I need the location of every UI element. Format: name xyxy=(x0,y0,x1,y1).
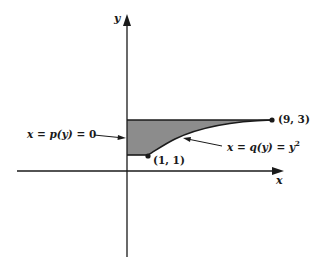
right-eq-equals-2: = xyxy=(273,141,289,153)
left-boundary-equation: x = p(y) = 0 xyxy=(27,129,96,140)
left-eq-func: p(y) xyxy=(49,128,72,140)
curve-pointer-line xyxy=(190,140,222,147)
point-1-1-marker xyxy=(145,153,150,158)
y-axis-arrowhead-icon xyxy=(123,14,131,26)
right-eq-func: q(y) xyxy=(249,141,272,153)
left-eq-equals-1: = xyxy=(33,128,49,140)
left-eq-equals-2: = xyxy=(73,128,89,140)
right-eq-rhs-exponent: 2 xyxy=(295,139,300,148)
point-label-1-1: (1, 1) xyxy=(153,155,185,166)
x-axis-label: x xyxy=(276,175,283,186)
left-eq-rhs: 0 xyxy=(89,128,96,140)
point-label-9-3: (9, 3) xyxy=(278,114,310,125)
right-boundary-equation: x = q(y) = y2 xyxy=(227,140,300,153)
curve-pointer-arrowhead-icon xyxy=(183,137,191,142)
y-axis-label: y xyxy=(114,13,120,24)
left-boundary-pointer-arrowhead-icon xyxy=(118,135,127,140)
right-eq-equals-1: = xyxy=(233,141,249,153)
point-9-3-marker xyxy=(269,117,274,122)
left-boundary-pointer-line xyxy=(94,135,119,138)
